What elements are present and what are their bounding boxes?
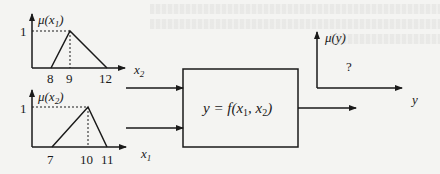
- unknown-output-marker: ?: [346, 59, 352, 74]
- x-axis-label: y: [410, 92, 418, 107]
- y-tick-1: 1: [20, 101, 27, 116]
- triangular-membership-function: [52, 107, 107, 147]
- y-axis-label: μ(x1): [37, 12, 63, 29]
- x-tick: 9: [66, 71, 73, 86]
- x-tick: 8: [47, 71, 54, 86]
- x-tick: 11: [101, 152, 114, 167]
- triangular-membership-function: [51, 31, 107, 68]
- fuzzy-system-diagram: μ(x1) 1 8 9 12 x2 μ(x2) 1 7 10 11 x1 y =…: [0, 0, 440, 174]
- x-tick: 7: [47, 152, 54, 167]
- x-tick: 12: [99, 71, 112, 86]
- y-tick-1: 1: [20, 24, 27, 39]
- input-label-x1: x1: [140, 146, 151, 163]
- system-equation: y = f(x1, x2): [201, 100, 272, 118]
- y-axis-label: μ(y): [324, 30, 346, 45]
- input-arrows: x1: [126, 88, 183, 163]
- y-axis-label: μ(x2): [37, 89, 63, 106]
- output-membership-plot: μ(y) ? y: [317, 30, 418, 107]
- input-membership-plot-1: μ(x1) 1 8 9 12 x2: [20, 12, 145, 86]
- x-axis-label: x2: [133, 62, 145, 79]
- input-membership-plot-2: μ(x2) 1 7 10 11: [20, 89, 126, 167]
- x-tick: 10: [80, 152, 93, 167]
- system-function-box: y = f(x1, x2): [183, 69, 298, 147]
